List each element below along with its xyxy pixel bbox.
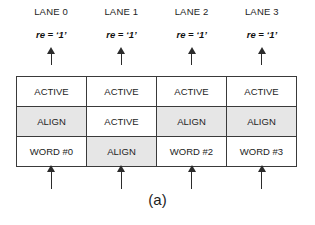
fifo-cell: ACTIVE (157, 77, 227, 107)
lane-title: LANE 2 (175, 6, 209, 18)
fifo-cell: WORD #3 (227, 137, 297, 167)
arrow-up-icon (47, 47, 56, 65)
fifo-cell: ACTIVE (227, 77, 297, 107)
lane-header-1: LANE 1 re = ‘1’ (86, 6, 156, 70)
lane-read-enable-signal: re = ‘1’ (106, 29, 136, 41)
fifo-cell: ACTIVE (87, 77, 157, 107)
arrow-up-icon (47, 165, 56, 189)
arrow-up-icon (117, 165, 126, 189)
lane-read-enable-signal: re = ‘1’ (176, 29, 206, 41)
lane-alignment-figure: LANE 0 re = ‘1’ LANE 1 re = ‘1’ LANE 2 r… (0, 0, 315, 225)
arrow-up-icon (187, 165, 196, 189)
lane-read-enable-signal: re = ‘1’ (247, 29, 277, 41)
lane-fifo-table: ACTIVE ACTIVE ACTIVE ACTIVE ALIGN ACTIVE… (16, 76, 297, 167)
lane-input-1 (86, 165, 156, 191)
lane-title: LANE 1 (104, 6, 138, 18)
fifo-cell: ALIGN (87, 137, 157, 167)
lane-header-3: LANE 3 re = ‘1’ (227, 6, 297, 70)
fifo-cell: ACTIVE (87, 107, 157, 137)
lane-input-0 (16, 165, 86, 191)
arrow-up-icon (187, 47, 196, 65)
lane-input-2 (157, 165, 227, 191)
arrow-up-icon (257, 47, 266, 65)
arrow-up-icon (257, 165, 266, 189)
table-row: ACTIVE ACTIVE ACTIVE ACTIVE (17, 77, 297, 107)
fifo-cell: WORD #0 (17, 137, 87, 167)
table-row: WORD #0 ALIGN WORD #2 WORD #3 (17, 137, 297, 167)
lane-header-2: LANE 2 re = ‘1’ (157, 6, 227, 70)
fifo-cell: ALIGN (17, 107, 87, 137)
lane-header-row: LANE 0 re = ‘1’ LANE 1 re = ‘1’ LANE 2 r… (16, 6, 297, 70)
lane-header-0: LANE 0 re = ‘1’ (16, 6, 86, 70)
lane-title: LANE 3 (245, 6, 279, 18)
lane-input-3 (227, 165, 297, 191)
arrow-up-icon (117, 47, 126, 65)
fifo-cell: ALIGN (227, 107, 297, 137)
fifo-cell: WORD #2 (157, 137, 227, 167)
fifo-cell: ACTIVE (17, 77, 87, 107)
lane-input-arrow-row (16, 165, 297, 191)
lane-title: LANE 0 (34, 6, 68, 18)
lane-read-enable-signal: re = ‘1’ (36, 29, 66, 41)
table-row: ALIGN ACTIVE ALIGN ALIGN (17, 107, 297, 137)
figure-caption: (a) (0, 190, 315, 210)
fifo-cell: ALIGN (157, 107, 227, 137)
